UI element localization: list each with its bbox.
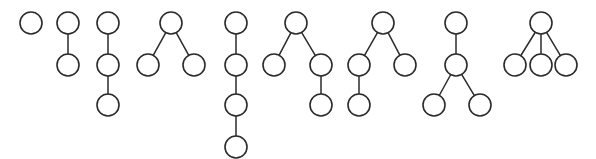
tree-diagram-canvas xyxy=(0,0,596,159)
tree-node xyxy=(137,54,159,76)
tree-root-node xyxy=(57,12,79,34)
tree-edge xyxy=(301,32,316,57)
tree-root-node xyxy=(285,12,307,34)
tree-node xyxy=(445,54,467,76)
tree-node xyxy=(394,54,416,76)
tree-group xyxy=(57,12,79,76)
tree-node xyxy=(555,54,577,76)
tree-node xyxy=(183,54,205,76)
tree-node xyxy=(97,94,119,116)
tree-node xyxy=(348,94,370,116)
tree-edge xyxy=(439,74,451,96)
tree-root-node xyxy=(97,12,119,34)
tree-node xyxy=(530,54,552,76)
tree-group xyxy=(504,12,577,76)
tree-node xyxy=(97,54,119,76)
tree-group xyxy=(348,12,416,116)
tree-node xyxy=(225,136,247,158)
tree-edge xyxy=(279,32,292,56)
tree-node xyxy=(348,54,370,76)
tree-node xyxy=(225,94,247,116)
tree-group xyxy=(225,12,247,158)
tree-edge xyxy=(546,32,561,57)
tree-group xyxy=(137,12,205,76)
tree-edge xyxy=(176,32,189,56)
tree-node xyxy=(225,54,247,76)
tree-group xyxy=(423,12,491,116)
tree-root-node xyxy=(445,12,467,34)
tree-root-node xyxy=(20,12,42,34)
tree-node xyxy=(423,94,445,116)
tree-node xyxy=(469,94,491,116)
trees-svg xyxy=(0,0,596,159)
tree-node xyxy=(57,54,79,76)
tree-edge xyxy=(461,74,475,97)
tree-edge xyxy=(153,32,166,56)
tree-node xyxy=(504,54,526,76)
tree-node xyxy=(310,94,332,116)
tree-node xyxy=(310,54,332,76)
tree-root-node xyxy=(372,12,394,34)
tree-edge xyxy=(364,32,378,57)
tree-edge xyxy=(520,32,535,57)
tree-root-node xyxy=(160,12,182,34)
tree-node xyxy=(263,54,285,76)
tree-root-node xyxy=(530,12,552,34)
tree-root-node xyxy=(225,12,247,34)
tree-group xyxy=(97,12,119,116)
tree-edge xyxy=(388,32,401,56)
tree-group xyxy=(20,12,42,34)
tree-group xyxy=(263,12,332,116)
